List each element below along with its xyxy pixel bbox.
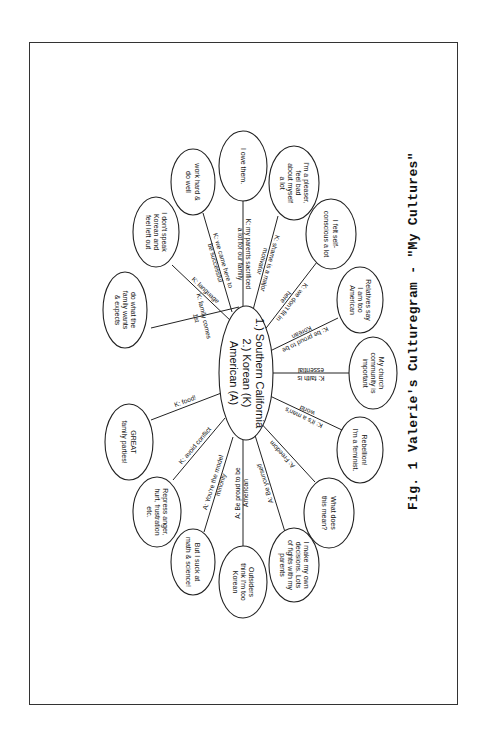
node-repress-anger: Repress anger, hurt, frustration etc.: [133, 477, 181, 547]
node-text: Rebellion!: [361, 434, 368, 465]
node-family-parties: GREAT family parties!: [105, 404, 153, 480]
node-text: & expects: [113, 295, 121, 326]
node-text: My church: [377, 357, 385, 389]
node-text: do what the: [130, 292, 137, 328]
node-text: I owe them.: [240, 148, 247, 184]
node-text: family wants: [121, 291, 129, 330]
link-label: K: we don't fit in: [275, 282, 309, 323]
node-outsiders-think: Outsiders think I'm too Korean: [219, 546, 267, 618]
link-label: essential: [297, 367, 324, 374]
link-label: K: language: [190, 275, 221, 305]
node-text: parents: [278, 553, 286, 577]
node-text: etc.: [146, 506, 153, 517]
node-text: conscious a lot: [323, 211, 330, 257]
link-label: A: Freedom: [267, 439, 296, 470]
node-text: this mean?: [321, 496, 328, 530]
node-pleaser: I'm a pleaser, feel bad about myself a l…: [269, 146, 319, 220]
link-label: K: my parents sacrificed: [244, 219, 252, 290]
node-text: Korean and: [153, 214, 160, 250]
node-what-does-this-mean: What does this mean?: [304, 478, 354, 548]
node-text: GREAT: [130, 430, 137, 454]
node-text: What does: [330, 496, 337, 530]
culturegram-diagram: K: family comes1st K: language K: we cam…: [0, 0, 483, 737]
node-text: feel bad: [295, 171, 302, 196]
node-text: work hard &: [194, 162, 201, 201]
link-label: K: faith is: [297, 375, 325, 382]
node-text: hurt, frustration: [154, 488, 161, 535]
node-text: I make my own: [302, 541, 310, 588]
node-text: I don't speak: [160, 212, 168, 252]
node-suck-at-math: But I suck at math & science!: [171, 529, 215, 595]
node-text: I'm a pleaser,: [302, 162, 310, 203]
node-text: do well: [185, 171, 192, 193]
node-work-hard: work hard & do well: [171, 149, 215, 215]
center-line-2: 2.) Korean (K): [241, 338, 253, 407]
node-text: of fights with my: [286, 540, 294, 591]
link-label: K: avoid conflict: [177, 425, 212, 465]
figure-label: Fig. 1: [406, 461, 421, 510]
node-text: feel left out: [145, 215, 152, 249]
node-text: family parties!: [120, 420, 128, 463]
node-owe-them: I owe them.: [219, 131, 267, 201]
node-text: a lot: [279, 176, 286, 189]
figure-caption: Fig. 1 Valerie's Culturegram - "My Cultu…: [406, 152, 421, 510]
node-text: important: [361, 358, 369, 387]
node-text: Repress anger,: [161, 488, 169, 536]
link-label: K: food!: [173, 393, 197, 408]
node-relatives-say: Relatives say I am too American: [337, 267, 383, 333]
node-text: Outsiders: [248, 567, 255, 597]
link-label: A: Be proud to be: [234, 467, 242, 519]
node-text: But I suck at: [194, 543, 201, 582]
center-line-1: 1.) Southern California: [254, 318, 266, 429]
link-label: a lot for our family: [236, 228, 244, 281]
node-text: math & science!: [185, 537, 192, 587]
node-dont-speak-korean: I don't speak Korean and feel left out: [133, 197, 179, 267]
node-text: I'm a feminist.: [352, 429, 359, 472]
node-text: about myself: [286, 163, 294, 203]
link-label: American: [242, 479, 249, 507]
node-text: Korean: [232, 571, 239, 594]
node-text: American: [349, 285, 356, 315]
node-text: decisions. Lots: [295, 542, 302, 589]
node-family-expects: do what the family wants & expects: [103, 272, 147, 348]
node-text: community is: [369, 353, 377, 394]
node-text: think I'm too: [240, 563, 247, 601]
center-node: 1.) Southern California 2.) Korean (K) A…: [219, 306, 273, 440]
figure-title: Valerie's Culturegram - "My Cultures": [406, 152, 421, 452]
node-text: I felt self-: [332, 220, 339, 249]
node-self-conscious: I felt self- conscious a lot: [306, 199, 356, 269]
node-own-decisions: I make my own decisions. Lots of fights …: [269, 528, 319, 602]
link-label: 1st: [192, 313, 201, 323]
node-rebellion: Rebellion! I'm a feminist.: [337, 417, 383, 483]
node-text: I am too: [357, 287, 364, 312]
node-church-community: My church community is important: [349, 337, 397, 409]
center-line-3: American (A): [228, 341, 240, 405]
node-text: Relatives say: [364, 279, 372, 321]
